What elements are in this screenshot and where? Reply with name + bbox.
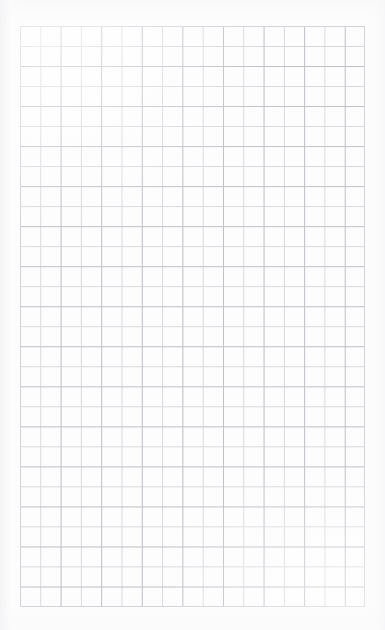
grid-sheet xyxy=(20,26,365,607)
grid-lines-accent xyxy=(20,26,365,607)
graph-paper-page xyxy=(0,0,385,630)
